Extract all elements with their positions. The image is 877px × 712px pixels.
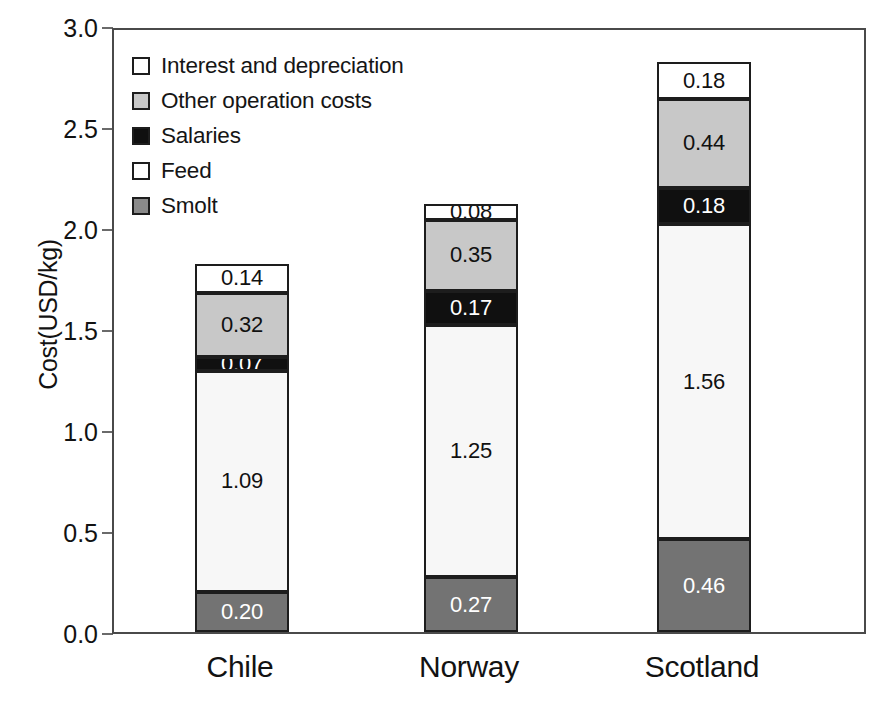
x-axis-label: Chile: [207, 650, 274, 684]
bar-segment-value-label: 0.32: [221, 314, 263, 336]
bar-segment-value-label: 0.17: [450, 297, 492, 319]
y-tick-label: 1.5: [42, 317, 98, 346]
bar-group[interactable]: 0.201.090.070.320.14: [195, 26, 289, 632]
bar-segment-value-label: 1.25: [450, 440, 492, 462]
bar-segment[interactable]: 1.25: [424, 325, 518, 578]
legend-swatch-icon: [132, 92, 150, 110]
bar-segment[interactable]: 0.08: [424, 204, 518, 220]
legend-item[interactable]: Salaries: [132, 118, 462, 153]
stacked-bar-chart: Cost(USD/kg) 0.00.51.01.52.02.53.0 Inter…: [0, 0, 877, 712]
y-tick-label: 2.0: [42, 216, 98, 245]
bar-segment[interactable]: 1.56: [657, 224, 751, 539]
y-axis-tick-labels: 0.00.51.01.52.02.53.0: [42, 0, 98, 712]
bar-segment[interactable]: 0.44: [657, 99, 751, 188]
bar-segment-value-label: 1.09: [221, 470, 263, 492]
bar-segment[interactable]: 0.14: [195, 264, 289, 292]
legend-swatch-icon: [132, 57, 150, 75]
legend-swatch-icon: [132, 127, 150, 145]
legend-item[interactable]: Feed: [132, 153, 462, 188]
bar-segment[interactable]: 0.07: [195, 357, 289, 371]
y-tick-label: 0.0: [42, 620, 98, 649]
bar-segment-value-label: 0.27: [450, 594, 492, 616]
legend-swatch-icon: [132, 197, 150, 215]
bar-segment-value-label: 0.14: [221, 267, 263, 289]
bar-segment-value-label: 0.44: [683, 132, 725, 154]
bar-segment[interactable]: 0.18: [657, 62, 751, 98]
bar-segment[interactable]: 0.20: [195, 592, 289, 632]
bar-group[interactable]: 0.271.250.170.350.08: [424, 26, 518, 632]
bar-segment-value-label: 0.35: [450, 244, 492, 266]
bar-segment-value-label: 0.18: [683, 70, 725, 92]
x-axis-label: Scotland: [645, 650, 759, 684]
bar-segment-value-label: 0.18: [683, 195, 725, 217]
bar-segment[interactable]: 0.18: [657, 188, 751, 224]
legend-swatch-icon: [132, 162, 150, 180]
y-tick-label: 3.0: [42, 14, 98, 43]
legend-item[interactable]: Other operation costs: [132, 83, 462, 118]
legend-item[interactable]: Smolt: [132, 188, 462, 223]
bar-segment[interactable]: 0.27: [424, 577, 518, 632]
bar-segment[interactable]: 0.35: [424, 220, 518, 291]
chart-legend: Interest and depreciationOther operation…: [132, 48, 462, 223]
bar-segment[interactable]: 0.46: [657, 539, 751, 632]
bar-segment-value-label: 0.20: [221, 601, 263, 623]
bar-segment-value-label: 0.46: [683, 575, 725, 597]
bar-segment-value-label: 0.07: [221, 357, 263, 371]
plot-area: Interest and depreciationOther operation…: [112, 28, 866, 634]
bar-segment-value-label: 0.08: [450, 204, 492, 220]
bar-segment[interactable]: 1.09: [195, 371, 289, 591]
bar-segment[interactable]: 0.32: [195, 293, 289, 358]
y-tick-label: 0.5: [42, 519, 98, 548]
bar-segment-value-label: 1.56: [683, 371, 725, 393]
bar-segment[interactable]: 0.17: [424, 291, 518, 325]
y-tick-label: 2.5: [42, 115, 98, 144]
legend-item[interactable]: Interest and depreciation: [132, 48, 462, 83]
x-axis-label: Norway: [419, 650, 519, 684]
bar-group[interactable]: 0.461.560.180.440.18: [657, 26, 751, 632]
y-tick-label: 1.0: [42, 418, 98, 447]
